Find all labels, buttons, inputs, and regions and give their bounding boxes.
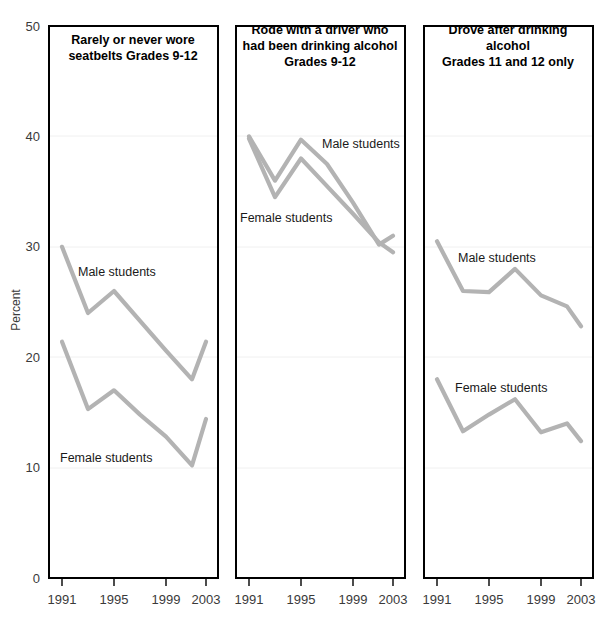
panel-drove-after-drinking: Drove after drinking alcohol Grades 11 a… — [423, 23, 596, 607]
y-tick-label-0: 0 — [33, 571, 40, 586]
y-tick-label-40: 40 — [26, 129, 40, 144]
y-axis-title: Percent — [9, 289, 23, 331]
panel-2-label-female: Female students — [240, 211, 332, 225]
panel-1-frame — [49, 26, 218, 578]
figure-container: 50 40 30 20 10 0 Percent Rarely or never… — [0, 0, 606, 622]
panel-1-x-axis: 1991 1995 1999 2003 — [48, 578, 221, 607]
panel-3-title-line-2: alcohol — [486, 39, 530, 53]
panel-3-label-female: Female students — [455, 381, 547, 395]
panel-2-label-male: Male students — [322, 137, 400, 151]
panel-3-label-male: Male students — [458, 251, 536, 265]
panel-3-xtick-label-1991: 1991 — [423, 592, 452, 607]
y-tick-label-30: 30 — [26, 239, 40, 254]
panel-1-label-female: Female students — [60, 451, 152, 465]
panel-2-frame — [236, 26, 405, 578]
panel-2-title-line-3: Grades 9-12 — [284, 55, 356, 69]
y-tick-label-10: 10 — [26, 460, 40, 475]
panel-3-xtick-label-1999: 1999 — [527, 592, 556, 607]
panel-1-xtick-label-2003: 2003 — [192, 592, 221, 607]
panel-rode-with-drinking-driver: Rode with a driver who had been drinking… — [235, 23, 408, 607]
y-tick-label-20: 20 — [26, 350, 40, 365]
multi-panel-line-chart: 50 40 30 20 10 0 Percent Rarely or never… — [0, 0, 606, 622]
panel-3-xtick-label-2003: 2003 — [567, 592, 596, 607]
panel-1-xtick-label-1999: 1999 — [152, 592, 181, 607]
panel-1-title-line-1: Rarely or never wore — [71, 33, 195, 47]
panel-1-label-male: Male students — [78, 265, 156, 279]
panel-2-xtick-label-2003: 2003 — [379, 592, 408, 607]
panel-2-xtick-label-1995: 1995 — [287, 592, 316, 607]
panel-2-x-axis: 1991 1995 1999 2003 — [235, 578, 408, 607]
panel-3-title-line-3: Grades 11 and 12 only — [442, 55, 574, 69]
panel-2-xtick-label-1999: 1999 — [339, 592, 368, 607]
panel-1-xtick-label-1991: 1991 — [48, 592, 77, 607]
panel-3-x-axis: 1991 1995 1999 2003 — [423, 578, 596, 607]
panel-3-xtick-label-1995: 1995 — [475, 592, 504, 607]
panel-2-title-line-1: Rode with a driver who — [252, 23, 389, 37]
panel-seatbelts: Rarely or never wore seatbelts Grades 9-… — [48, 26, 221, 607]
panel-2-title-line-2: had been drinking alcohol — [243, 39, 398, 53]
panel-3-title-line-1: Drove after drinking — [449, 23, 568, 37]
y-axis: 50 40 30 20 10 0 Percent — [9, 19, 40, 586]
panel-1-xtick-label-1995: 1995 — [100, 592, 129, 607]
y-tick-label-50: 50 — [26, 19, 40, 34]
panel-1-title-line-2: seatbelts Grades 9-12 — [68, 49, 197, 63]
panel-2-xtick-label-1991: 1991 — [235, 592, 264, 607]
panel-3-frame — [424, 26, 593, 578]
